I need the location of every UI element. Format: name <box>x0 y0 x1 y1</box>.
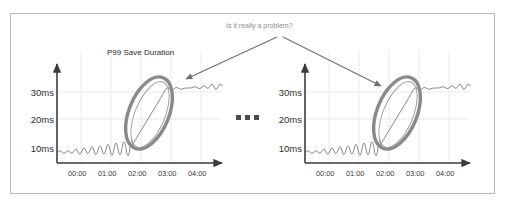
right-xtick-0300: 03:00 <box>406 170 424 178</box>
left-series-line <box>58 84 222 156</box>
left-highlight-ellipse <box>116 70 182 155</box>
right-ytick-30ms: 30ms <box>270 88 302 98</box>
left-ytick-30ms: 30ms <box>22 88 54 98</box>
left-chart <box>57 50 222 163</box>
right-series-line <box>306 84 470 156</box>
ellipsis-dot <box>245 115 250 120</box>
ellipsis-separator <box>236 115 259 120</box>
left-xtick-0300: 03:00 <box>158 170 176 178</box>
left-xtick-0200: 02:00 <box>128 170 146 178</box>
figure-root: Is it really a problem? P99 Save Duratio… <box>0 0 505 210</box>
left-chart-title: P99 Save Duration <box>107 49 174 57</box>
right-ytick-20ms: 20ms <box>270 115 302 125</box>
ellipsis-dot <box>236 115 241 120</box>
ellipsis-dot <box>254 115 259 120</box>
right-xtick-0100: 01:00 <box>346 170 364 178</box>
left-ytick-10ms: 10ms <box>22 144 54 154</box>
left-xtick-0400: 04:00 <box>188 170 206 178</box>
callout-label: Is it really a problem? <box>226 22 293 29</box>
callout-arrow-left <box>186 37 277 79</box>
right-ytick-10ms: 10ms <box>270 144 302 154</box>
right-xtick-0400: 04:00 <box>436 170 454 178</box>
right-gridlines <box>306 50 470 163</box>
left-xtick-0000: 00:00 <box>68 170 86 178</box>
right-chart <box>305 50 470 163</box>
left-ytick-20ms: 20ms <box>22 115 54 125</box>
left-xtick-0100: 01:00 <box>98 170 116 178</box>
right-xtick-0200: 02:00 <box>376 170 394 178</box>
callout-arrow-right <box>283 37 381 86</box>
right-xtick-0000: 00:00 <box>316 170 334 178</box>
left-gridlines <box>58 50 222 163</box>
figure-graphics <box>0 0 505 210</box>
